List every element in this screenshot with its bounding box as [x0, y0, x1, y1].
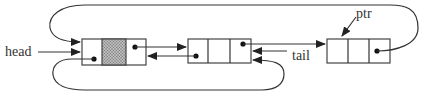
- head-label: head: [5, 44, 31, 59]
- node-1-data-cell-shaded: [102, 39, 126, 65]
- ptr-arrow: [342, 17, 356, 36]
- linked-list-diagram: head tail ptr: [0, 0, 426, 98]
- node-1: [82, 39, 146, 65]
- node-2: [188, 39, 251, 63]
- tail-label: tail: [292, 48, 310, 63]
- ptr-label: ptr: [356, 6, 372, 21]
